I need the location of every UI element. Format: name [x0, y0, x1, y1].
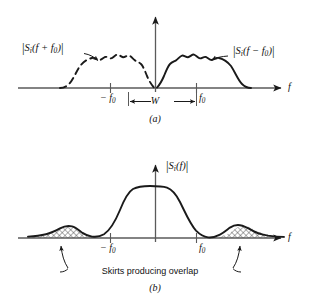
panel-a-right-arg: (f − f	[243, 45, 265, 56]
figure-container: |Si(f + f0)| |Si(f − f0)| − f0 f0 W f (a…	[0, 0, 312, 304]
panel-b-leader-right-tail	[233, 269, 241, 272]
panel-b-negf0-text: − f	[100, 242, 112, 253]
panel-a-xtick-label-neg-f0: − f0	[100, 93, 116, 105]
abs-bar-close: |	[61, 41, 64, 55]
panel-b-xtick-label-neg-f0: − f0	[100, 243, 116, 255]
panel-b-caption: (b)	[149, 283, 161, 293]
panel-a-posf0-sub: 0	[202, 97, 206, 105]
panel-b-xtick-label-pos-f0: f0	[199, 243, 205, 255]
panel-a-bandwidth-label: W	[151, 96, 159, 106]
panel-a-axis-label-f: f	[288, 82, 291, 92]
panel-a-curve-left-dashed	[60, 55, 154, 88]
panel-b-leader-right	[233, 246, 240, 268]
panel-b-leader-left	[61, 246, 68, 268]
panel-a-graphics	[18, 17, 281, 106]
panel-a-left-spectrum-label: |Si(f + f0)|	[22, 42, 63, 55]
panel-b-negf0-sub: 0	[112, 247, 116, 255]
panel-a-caption: (a)	[149, 114, 161, 124]
panel-b-axis-label-f: f	[288, 232, 291, 242]
panel-a-negf0-text: − f	[100, 92, 112, 103]
panel-b-graphics	[18, 165, 284, 272]
panel-a-right-spectrum-label: |Si(f − f0)|	[233, 45, 274, 58]
panel-b-posf0-sub: 0	[202, 247, 206, 255]
panel-a-left-arg: (f + f	[32, 42, 54, 53]
panel-b-skirts-annotation: Skirts producing overlap	[102, 267, 199, 276]
panel-a-xtick-label-pos-f0: f0	[199, 93, 205, 105]
panel-a-curve-right-solid	[157, 55, 251, 88]
abs-bar-close: |	[186, 159, 189, 173]
panel-b-spectrum-label: |Si(f)|	[166, 160, 188, 173]
panel-b-leader-left-tail	[60, 269, 68, 272]
abs-bar-close: |	[272, 44, 275, 58]
panel-a-negf0-sub: 0	[112, 97, 116, 105]
